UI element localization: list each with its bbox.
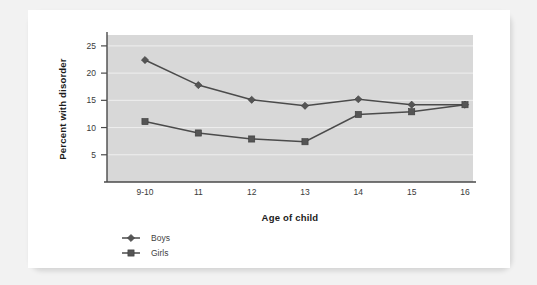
x-tick-label-13: 13 (300, 187, 310, 197)
x-tick-label-9-10: 9-10 (136, 187, 153, 197)
plot-area-background (107, 35, 473, 182)
data-point-marker-legend-girls (128, 250, 134, 256)
x-axis-title: Age of child (262, 212, 319, 223)
x-tick-label-12: 12 (247, 187, 257, 197)
y-axis-title: Percent with disorder (57, 58, 68, 159)
x-tick-label-16: 16 (460, 187, 470, 197)
line-chart-figure: 510152025 9-10111213141516 Percent with … (28, 10, 510, 268)
chart-card: 510152025 9-10111213141516 Percent with … (28, 10, 510, 268)
data-point-marker-girls-9-10 (142, 118, 148, 124)
data-point-marker-girls-13 (302, 139, 308, 145)
page-root: 510152025 9-10111213141516 Percent with … (0, 0, 537, 285)
chart-canvas: 510152025 9-10111213141516 Percent with … (28, 10, 510, 268)
y-tick-label-10: 10 (87, 123, 97, 133)
y-tick-label-15: 15 (87, 95, 97, 105)
x-tick-label-15: 15 (407, 187, 417, 197)
data-point-marker-girls-15 (409, 109, 415, 115)
y-tick-label-5: 5 (91, 150, 96, 160)
y-tick-label-25: 25 (87, 41, 97, 51)
data-point-marker-girls-12 (249, 136, 255, 142)
y-tick-label-20: 20 (87, 68, 97, 78)
x-tick-label-11: 11 (194, 187, 203, 197)
legend-label-girls: Girls (151, 248, 168, 258)
data-point-marker-girls-14 (355, 111, 361, 117)
legend-label-boys: Boys (151, 233, 170, 243)
data-point-marker-girls-16 (462, 102, 468, 108)
x-tick-label-14: 14 (354, 187, 364, 197)
data-point-marker-girls-11 (195, 130, 201, 136)
